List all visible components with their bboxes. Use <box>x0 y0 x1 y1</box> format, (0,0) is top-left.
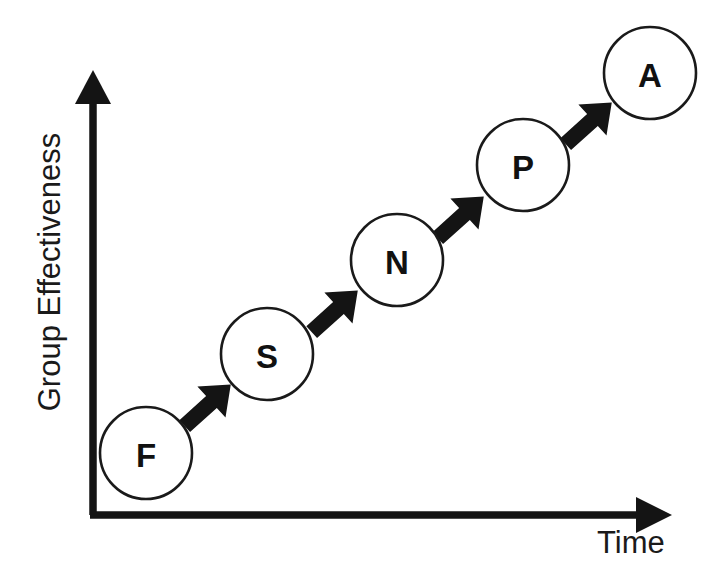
stage-node-a: A <box>604 27 696 119</box>
stage-letter-s: S <box>256 338 278 375</box>
stage-letter-p: P <box>512 149 534 186</box>
y-axis-arrowhead <box>75 70 111 104</box>
stage-node-s: S <box>221 308 313 400</box>
stage-letter-f: F <box>136 437 156 474</box>
diagram-canvas: Group Effectiveness Time F <box>0 0 725 586</box>
stage-node-n: N <box>351 214 443 306</box>
x-axis-label: Time <box>597 525 665 560</box>
y-axis-label: Group Effectiveness <box>32 133 67 412</box>
group-effectiveness-diagram: Group Effectiveness Time F <box>0 0 725 586</box>
stage-letter-a: A <box>638 57 662 94</box>
stage-letter-n: N <box>385 244 409 281</box>
stage-node-f: F <box>100 407 192 499</box>
stage-node-p: P <box>477 119 569 211</box>
